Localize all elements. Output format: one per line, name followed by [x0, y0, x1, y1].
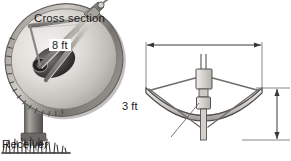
- width-dimension-line: [147, 42, 261, 47]
- cross-section-title: Cross section: [34, 12, 105, 24]
- receiver-assembly: [196, 54, 212, 140]
- figure-satellite-dish-cross-section: Cross section 8 ft 3 ft Receiver: [0, 0, 291, 161]
- cross-section-diagram: [138, 0, 291, 161]
- width-dimension-label: 8 ft: [49, 39, 71, 51]
- satellite-dish-photo: [0, 0, 140, 161]
- receiver-mast: [201, 109, 207, 140]
- feed-housing-upper: [196, 69, 212, 89]
- depth-dimension-label: 3 ft: [120, 100, 140, 112]
- depth-dimension-line: [274, 89, 279, 139]
- receiver-label: Receiver: [2, 138, 48, 150]
